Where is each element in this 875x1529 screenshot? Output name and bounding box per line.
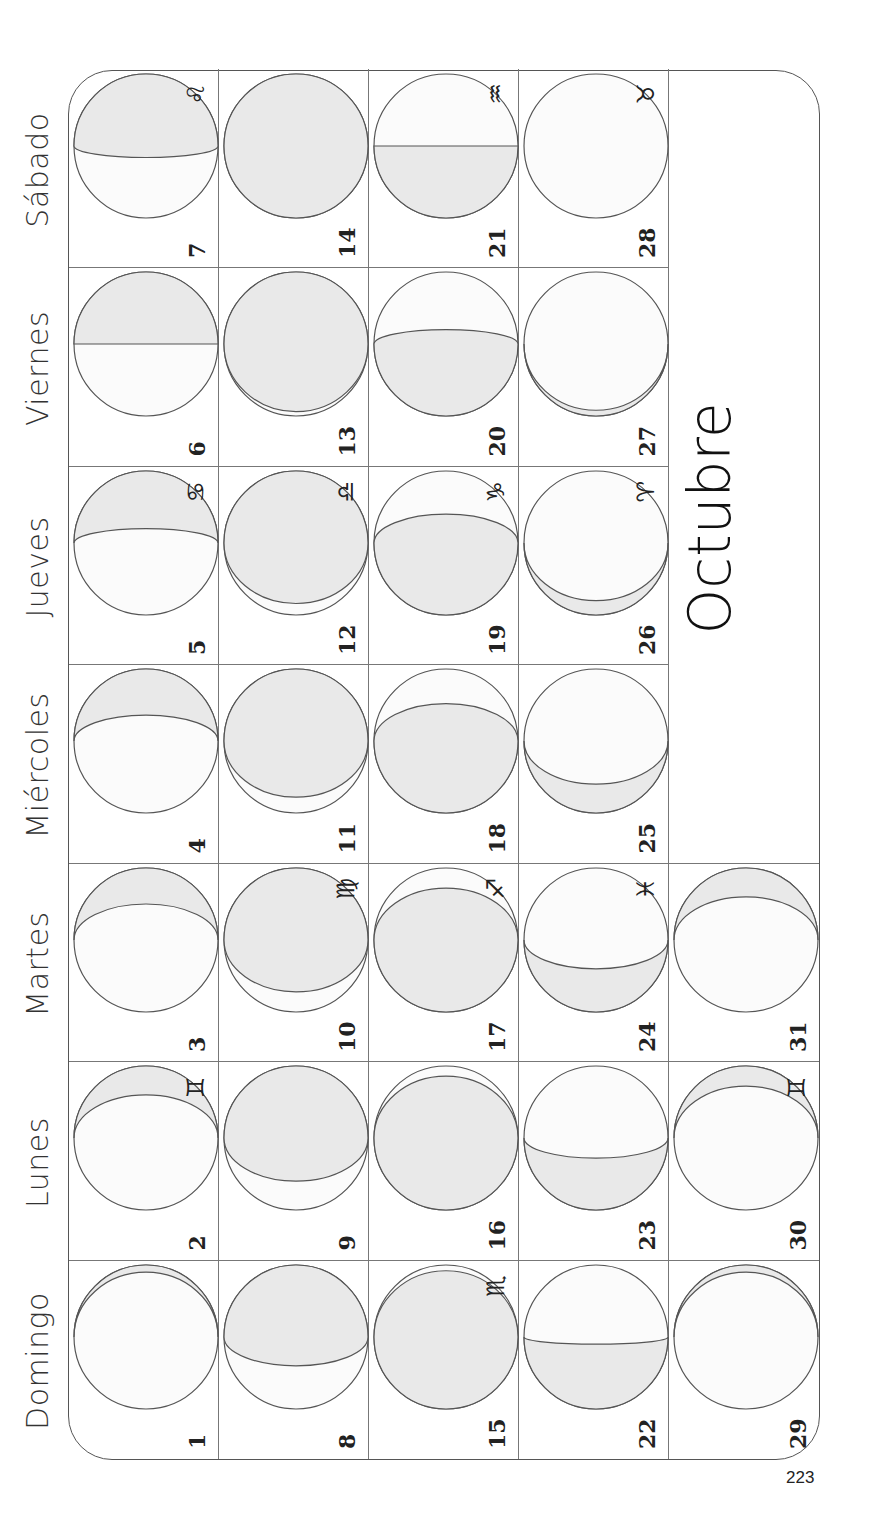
day-cell-15: 15♏ <box>369 1260 519 1459</box>
day-cell-16: 16 <box>369 1062 519 1261</box>
day-number: 23 <box>634 1220 660 1251</box>
weekday-header-4: Jueves <box>20 468 55 666</box>
day-cell-1: 1 <box>69 1260 219 1459</box>
moon-phase-icon <box>672 866 820 1014</box>
weekday-header-1: Lunes <box>20 1064 55 1262</box>
day-cell-14: 14 <box>219 69 369 268</box>
day-cell-8: 8 <box>219 1260 369 1459</box>
day-cell-19: 19♑ <box>369 466 519 665</box>
moon-phase-icon <box>672 1263 820 1411</box>
day-number: 13 <box>334 426 360 457</box>
day-cell-30: 30♊ <box>669 1062 819 1261</box>
moon-phase-icon <box>222 72 370 220</box>
day-number: 16 <box>484 1220 510 1251</box>
zodiac-sign-icon: ♐ <box>482 878 510 900</box>
day-cell-3: 3 <box>69 863 219 1062</box>
day-number: 20 <box>484 426 510 457</box>
zodiac-sign-icon: ♊ <box>182 1077 210 1099</box>
day-cell-7: 7♌ <box>69 69 219 268</box>
day-cell-21: 21♒ <box>369 69 519 268</box>
zodiac-sign-icon: ♑ <box>482 481 510 503</box>
day-cell-11: 11 <box>219 665 369 864</box>
weekday-header-0: Domingo <box>20 1262 55 1460</box>
page-number: 223 <box>786 1468 814 1488</box>
day-number: 3 <box>184 1037 210 1052</box>
day-number: 9 <box>334 1235 360 1250</box>
moon-phase-icon <box>372 271 520 419</box>
day-number: 24 <box>634 1021 660 1052</box>
day-number: 6 <box>184 441 210 456</box>
day-number: 28 <box>634 227 660 258</box>
moon-phase-icon <box>222 1263 370 1411</box>
day-number: 5 <box>184 640 210 655</box>
day-number: 30 <box>785 1220 811 1251</box>
weekday-header-6: Sábado <box>20 71 55 269</box>
moon-phase-icon <box>222 1065 370 1213</box>
moon-phase-icon <box>72 1263 220 1411</box>
moon-phase-icon <box>72 668 220 816</box>
day-cell-22: 22 <box>519 1260 669 1459</box>
day-number: 27 <box>634 426 660 457</box>
day-number: 12 <box>334 624 360 655</box>
weekday-header-3: Miércoles <box>20 667 55 865</box>
day-number: 1 <box>184 1434 210 1449</box>
moon-phase-icon <box>72 866 220 1014</box>
day-cell-27: 27 <box>519 268 669 467</box>
day-number: 4 <box>184 838 210 853</box>
day-cell-18: 18 <box>369 665 519 864</box>
day-cell-24: 24♓ <box>519 863 669 1062</box>
zodiac-sign-icon: ♈ <box>632 481 660 503</box>
day-cell-13: 13 <box>219 268 369 467</box>
day-number: 22 <box>634 1418 660 1449</box>
day-number: 21 <box>484 227 510 258</box>
day-number: 25 <box>634 823 660 854</box>
day-cell-4: 4 <box>69 665 219 864</box>
moon-phase-icon <box>72 271 220 419</box>
moon-phase-icon <box>522 668 670 816</box>
zodiac-sign-icon: ♉ <box>632 83 660 105</box>
zodiac-sign-icon: ♎ <box>332 481 360 503</box>
day-cell-12: 12♎ <box>219 466 369 665</box>
day-cell-25: 25 <box>519 665 669 864</box>
day-number: 26 <box>634 624 660 655</box>
moon-phase-icon <box>372 1065 520 1213</box>
zodiac-sign-icon: ♋ <box>182 481 210 503</box>
moon-phase-icon <box>522 1263 670 1411</box>
day-cell-28: 28♉ <box>519 69 669 268</box>
day-cell-6: 6 <box>69 268 219 467</box>
moon-phase-icon <box>522 271 670 419</box>
day-cell-29: 29 <box>669 1260 819 1459</box>
zodiac-sign-icon: ♌ <box>182 83 210 105</box>
day-cell-23: 23 <box>519 1062 669 1261</box>
day-number: 17 <box>484 1021 510 1052</box>
moon-phase-icon <box>372 668 520 816</box>
day-cell-17: 17♐ <box>369 863 519 1062</box>
day-cell-2: 2♊ <box>69 1062 219 1261</box>
day-cell-26: 26♈ <box>519 466 669 665</box>
day-number: 10 <box>334 1021 360 1052</box>
day-number: 19 <box>484 624 510 655</box>
moon-phase-icon <box>222 668 370 816</box>
day-number: 15 <box>484 1418 510 1449</box>
moon-phase-icon <box>222 271 370 419</box>
day-number: 11 <box>334 823 360 854</box>
day-cell-10: 10♍ <box>219 863 369 1062</box>
day-number: 8 <box>334 1434 360 1449</box>
day-number: 7 <box>184 243 210 258</box>
zodiac-sign-icon: ♓ <box>632 878 660 900</box>
zodiac-sign-icon: ♒ <box>482 83 510 105</box>
weekday-header-5: Viernes <box>20 270 55 468</box>
day-cell-20: 20 <box>369 268 519 467</box>
weekday-header-2: Martes <box>20 865 55 1063</box>
moon-phase-icon <box>522 1065 670 1213</box>
day-number: 31 <box>785 1021 811 1052</box>
day-cell-9: 9 <box>219 1062 369 1261</box>
day-number: 18 <box>484 823 510 854</box>
calendar-page: 12♊345♋67♌8910♍1112♎131415♏1617♐1819♑202… <box>0 0 875 1529</box>
zodiac-sign-icon: ♏ <box>482 1275 510 1297</box>
day-number: 29 <box>785 1418 811 1449</box>
zodiac-sign-icon: ♍ <box>332 878 360 900</box>
month-calendar-grid: 12♊345♋67♌8910♍1112♎131415♏1617♐1819♑202… <box>68 70 820 1460</box>
day-cell-5: 5♋ <box>69 466 219 665</box>
month-title: Octubre <box>676 402 744 634</box>
